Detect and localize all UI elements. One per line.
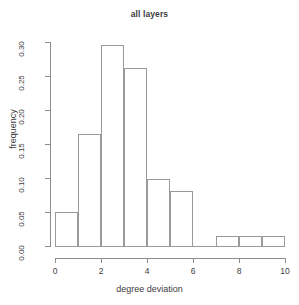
histogram-bar (262, 236, 285, 246)
x-tick-mark-4 (147, 258, 148, 263)
x-tick-label-8: 8 (227, 266, 251, 276)
histogram-bar (147, 179, 170, 246)
y-axis-title: frequency (8, 74, 18, 184)
x-tick-mark-2 (101, 258, 102, 263)
y-tick-mark-0.00 (45, 246, 50, 247)
y-tick-mark-0.10 (45, 178, 50, 179)
histogram-bar (78, 134, 101, 246)
histogram-bar (55, 212, 78, 246)
bars-baseline (55, 246, 285, 247)
y-tick-label-0.20: 0.20 (0, 105, 43, 115)
x-axis-line (55, 258, 285, 259)
chart-title: all layers (0, 9, 299, 19)
x-tick-label-2: 2 (89, 266, 113, 276)
histogram-bar (216, 236, 239, 246)
x-tick-mark-0 (55, 258, 56, 263)
y-tick-mark-0.15 (45, 144, 50, 145)
y-tick-label-0.15: 0.15 (0, 139, 43, 149)
x-tick-label-10: 10 (273, 266, 297, 276)
x-tick-mark-10 (285, 258, 286, 263)
histogram-figure: all layers 0.30 0.25 0.20 0.15 0.10 0.05… (0, 0, 299, 305)
x-tick-mark-8 (239, 258, 240, 263)
x-tick-label-0: 0 (43, 266, 67, 276)
histogram-bar (124, 68, 147, 246)
y-tick-mark-0.20 (45, 110, 50, 111)
x-tick-mark-6 (193, 258, 194, 263)
y-tick-mark-0.30 (45, 42, 50, 43)
y-axis-line (50, 42, 51, 247)
y-tick-label-0.30: 0.30 (0, 37, 43, 47)
y-tick-label-0.10: 0.10 (0, 173, 43, 183)
histogram-bar (239, 236, 262, 246)
y-tick-label-0.05: 0.05 (0, 207, 43, 217)
x-axis-title: degree deviation (0, 284, 299, 294)
y-tick-mark-0.05 (45, 212, 50, 213)
y-tick-mark-0.25 (45, 76, 50, 77)
x-tick-label-4: 4 (135, 266, 159, 276)
x-tick-label-6: 6 (181, 266, 205, 276)
histogram-bar (101, 45, 124, 246)
y-tick-label-0.00: 0.00 (0, 241, 43, 251)
histogram-bar (170, 191, 193, 246)
y-tick-label-0.25: 0.25 (0, 71, 43, 81)
